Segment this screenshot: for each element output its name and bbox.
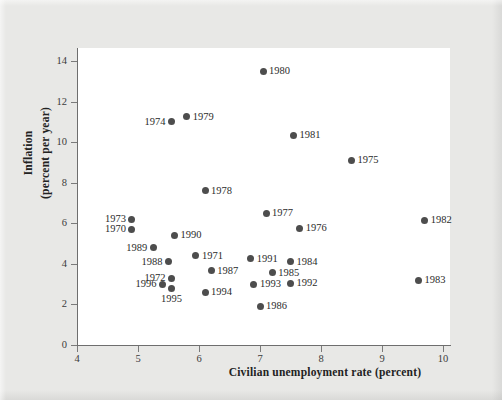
- data-point-label: 1977: [272, 208, 293, 219]
- scatter-chart-figure: Inflation (percent per year) Civilian un…: [0, 0, 502, 400]
- data-point-label: 1990: [181, 230, 202, 241]
- y-tick-label: 4: [25, 258, 67, 270]
- y-tick-label: 0: [25, 339, 67, 351]
- y-tick-mark: [71, 304, 77, 305]
- x-tick-mark: [260, 346, 261, 352]
- data-point-label: 1981: [300, 130, 321, 141]
- data-point-label: 1991: [257, 254, 278, 265]
- data-point[interactable]: [348, 157, 355, 164]
- data-point-label: 1978: [211, 186, 232, 197]
- data-point[interactable]: [415, 277, 422, 284]
- y-tick-label: 2: [25, 298, 67, 310]
- data-point[interactable]: [290, 132, 297, 139]
- data-point-label: 1986: [266, 301, 287, 312]
- y-tick-mark: [71, 223, 77, 224]
- x-tick-mark: [382, 346, 383, 352]
- y-axis-line: [77, 48, 78, 346]
- data-point[interactable]: [421, 217, 428, 224]
- data-point[interactable]: [168, 285, 175, 292]
- y-tick-label: 14: [25, 55, 67, 67]
- data-point-label: 1970: [105, 224, 126, 235]
- data-point[interactable]: [296, 225, 303, 232]
- data-point-label: 1987: [217, 266, 238, 277]
- data-point[interactable]: [257, 303, 264, 310]
- x-axis-line: [77, 345, 451, 346]
- x-tick-label: 9: [362, 353, 402, 364]
- y-tick-mark: [71, 183, 77, 184]
- data-point-label: 1988: [142, 257, 163, 268]
- data-point-label: 1974: [145, 117, 166, 128]
- data-point-label: 1984: [297, 257, 318, 268]
- data-point[interactable]: [150, 244, 157, 251]
- y-tick-mark: [71, 142, 77, 143]
- x-tick-mark: [321, 346, 322, 352]
- y-tick-mark: [71, 264, 77, 265]
- y-tick-label: 6: [25, 217, 67, 229]
- y-tick-mark: [71, 102, 77, 103]
- data-point-label: 1996: [135, 279, 156, 290]
- x-tick-label: 5: [118, 353, 158, 364]
- data-point-label: 1976: [306, 223, 327, 234]
- y-tick-label: 12: [25, 96, 67, 108]
- x-axis-title: Civilian unemployment rate (percent): [170, 366, 480, 378]
- data-point-label: 1975: [358, 155, 379, 166]
- y-tick-mark: [71, 61, 77, 62]
- data-point-label: 1993: [260, 279, 281, 290]
- data-point[interactable]: [263, 210, 270, 217]
- x-tick-label: 4: [57, 353, 97, 364]
- data-point-label: 1994: [211, 287, 232, 298]
- x-tick-mark: [77, 346, 78, 352]
- data-point-label: 1971: [202, 251, 223, 262]
- data-point-label: 1982: [431, 215, 452, 226]
- data-point-label: 1992: [297, 278, 318, 289]
- data-point-label: 1980: [269, 66, 290, 77]
- plot-area: [78, 48, 450, 345]
- data-point[interactable]: [202, 289, 209, 296]
- x-tick-label: 10: [423, 353, 463, 364]
- x-tick-label: 8: [301, 353, 341, 364]
- data-point-label: 1983: [425, 275, 446, 286]
- data-point[interactable]: [260, 68, 267, 75]
- data-point[interactable]: [159, 281, 166, 288]
- x-tick-mark: [199, 346, 200, 352]
- x-tick-mark: [138, 346, 139, 352]
- data-point[interactable]: [202, 187, 209, 194]
- data-point-label: 1995: [161, 294, 182, 305]
- x-tick-label: 6: [179, 353, 219, 364]
- data-point-label: 1973: [105, 214, 126, 225]
- y-tick-label: 8: [25, 177, 67, 189]
- y-tick-label: 10: [25, 136, 67, 148]
- data-point[interactable]: [287, 280, 294, 287]
- x-tick-label: 7: [240, 353, 280, 364]
- data-point-label: 1979: [193, 112, 214, 123]
- x-tick-mark: [443, 346, 444, 352]
- data-point[interactable]: [171, 232, 178, 239]
- data-point-label: 1989: [126, 243, 147, 254]
- data-point[interactable]: [168, 275, 175, 282]
